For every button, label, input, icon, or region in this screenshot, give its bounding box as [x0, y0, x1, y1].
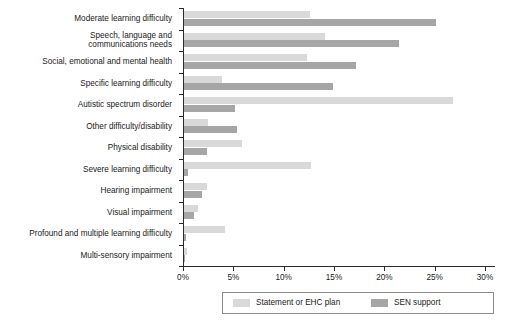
bar-sen-support — [184, 19, 436, 26]
y-axis-tick — [179, 8, 183, 9]
bar-sen-support — [184, 105, 235, 112]
category-axis-labels: Moderate learning difficultySpeech, lang… — [0, 8, 178, 266]
x-axis-tick-label: 25% — [415, 273, 455, 282]
category-label: Specific learning difficulty — [0, 79, 172, 88]
bar-statement-or-ehc-plan — [184, 183, 207, 190]
y-axis-tick — [179, 116, 183, 117]
bar-sen-support — [184, 126, 237, 133]
legend-entry[interactable]: Statement or EHC plan — [233, 298, 340, 307]
category-label: Other difficulty/disability — [0, 122, 172, 131]
bar-sen-support — [184, 40, 399, 47]
y-axis-tick — [179, 73, 183, 74]
bar-sen-support — [184, 212, 194, 219]
category-label: Hearing impairment — [0, 186, 172, 195]
bar-statement-or-ehc-plan — [184, 119, 208, 126]
plot-area: 0%5%10%15%20%25%30% — [183, 8, 495, 266]
bar-statement-or-ehc-plan — [184, 205, 198, 212]
x-axis-line — [183, 266, 495, 267]
bar-sen-support — [184, 83, 333, 90]
category-label: Multi-sensory impairment — [0, 251, 172, 260]
legend-swatch-icon — [233, 299, 250, 307]
bar-sen-support — [184, 148, 207, 155]
bar-sen-support — [184, 255, 185, 262]
x-axis-tick-label: 10% — [264, 273, 304, 282]
bar-chart: Moderate learning difficultySpeech, lang… — [0, 0, 507, 325]
y-axis-tick — [179, 180, 183, 181]
category-label: Visual impairment — [0, 208, 172, 217]
legend-label: Statement or EHC plan — [256, 298, 340, 307]
category-label: Profound and multiple learning difficult… — [0, 229, 172, 238]
bar-sen-support — [184, 191, 202, 198]
bar-statement-or-ehc-plan — [184, 33, 325, 40]
legend-label: SEN support — [394, 298, 440, 307]
category-label: Speech, language and communications need… — [0, 31, 172, 50]
category-label: Severe learning difficulty — [0, 165, 172, 174]
category-label: Physical disability — [0, 143, 172, 152]
x-axis-tick — [183, 267, 184, 271]
x-axis-tick-label: 5% — [213, 273, 253, 282]
x-axis-tick-label: 20% — [364, 273, 404, 282]
category-label: Social, emotional and mental health — [0, 57, 172, 66]
bar-sen-support — [184, 62, 356, 69]
category-label: Moderate learning difficulty — [0, 14, 172, 23]
x-axis-tick — [435, 267, 436, 271]
y-axis-tick — [179, 137, 183, 138]
bar-statement-or-ehc-plan — [184, 248, 187, 255]
x-axis-tick — [284, 267, 285, 271]
x-axis-tick-label: 30% — [465, 273, 505, 282]
x-axis-tick — [233, 267, 234, 271]
x-axis-tick — [384, 267, 385, 271]
x-axis-tick — [334, 267, 335, 271]
legend-swatch-icon — [371, 299, 388, 307]
bar-statement-or-ehc-plan — [184, 162, 311, 169]
bar-sen-support — [184, 234, 186, 241]
bar-statement-or-ehc-plan — [184, 76, 222, 83]
y-axis-tick — [179, 51, 183, 52]
bar-statement-or-ehc-plan — [184, 54, 307, 61]
y-axis-tick — [179, 30, 183, 31]
category-label: Autistic spectrum disorder — [0, 100, 172, 109]
legend-entry[interactable]: SEN support — [371, 298, 440, 307]
bar-statement-or-ehc-plan — [184, 226, 225, 233]
x-axis-tick-label: 15% — [314, 273, 354, 282]
bar-statement-or-ehc-plan — [184, 11, 310, 18]
bar-sen-support — [184, 169, 188, 176]
bar-statement-or-ehc-plan — [184, 97, 453, 104]
x-axis-tick-label: 0% — [163, 273, 203, 282]
y-axis-tick — [179, 159, 183, 160]
y-axis-tick — [179, 223, 183, 224]
y-axis-tick — [179, 94, 183, 95]
x-axis-tick — [485, 267, 486, 271]
y-axis-tick — [179, 245, 183, 246]
bar-statement-or-ehc-plan — [184, 140, 242, 147]
y-axis-tick — [179, 202, 183, 203]
chart-legend: Statement or EHC planSEN support — [222, 292, 494, 314]
